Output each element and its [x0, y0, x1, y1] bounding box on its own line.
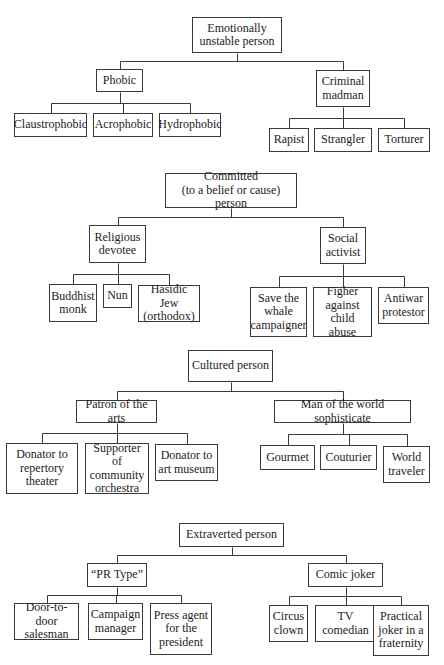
category-node: Social activist: [320, 227, 366, 264]
category-node: Phobic: [96, 69, 143, 92]
leaf-node: Antiwar protestor: [378, 287, 429, 324]
figure-caption-cropped: [6, 659, 246, 665]
leaf-node: World traveler: [383, 446, 430, 483]
leaf-node: Strangler: [314, 128, 372, 152]
leaf-node: Hydrophobic: [159, 113, 221, 137]
tree-root-cultured: Cultured person: [188, 350, 273, 382]
category-node: “PR Type”: [87, 563, 147, 587]
diagram-canvas: Emotionally unstable personPhobicClaustr…: [0, 0, 444, 665]
category-node: Man of the world sophisticate: [274, 400, 411, 423]
leaf-node: Donator to repertory theater: [6, 443, 78, 494]
leaf-node: Acrophobic: [93, 113, 153, 137]
category-node: Patron of the arts: [76, 400, 157, 423]
leaf-node: Hasidic Jew (orthodox): [138, 285, 200, 322]
category-node: Criminal madman: [316, 70, 370, 107]
leaf-node: Door-to-door salesman: [14, 603, 79, 640]
leaf-node: Figher against child abuse: [313, 287, 372, 337]
leaf-node: Claustrophobic: [14, 113, 87, 137]
leaf-node: Practical joker in a fraternity: [373, 605, 429, 656]
tree-root-extraverted: Extraverted person: [179, 523, 284, 547]
leaf-node: Couturier: [320, 445, 377, 470]
leaf-node: Campaign manager: [88, 603, 143, 640]
tree-root-emotionally-unstable: Emotionally unstable person: [192, 17, 282, 53]
leaf-node: Buddhist monk: [49, 284, 97, 322]
leaf-node: Nun: [103, 284, 132, 308]
tree-root-committed: Committed (to a belief or cause) person: [165, 173, 297, 208]
leaf-node: Torturer: [378, 128, 430, 152]
leaf-node: Supporter of community orchestra: [85, 443, 149, 494]
leaf-node: TV comedian: [315, 605, 376, 642]
leaf-node: Press agent for the president: [150, 603, 212, 655]
leaf-node: Donator to art museum: [155, 444, 218, 481]
leaf-node: Circus clown: [269, 605, 308, 642]
category-node: Comic joker: [308, 563, 383, 587]
category-node: Religious devotee: [89, 225, 146, 263]
leaf-node: Gourmet: [260, 445, 315, 470]
leaf-node: Save the whale campaigner: [250, 287, 307, 337]
leaf-node: Rapist: [269, 128, 309, 152]
